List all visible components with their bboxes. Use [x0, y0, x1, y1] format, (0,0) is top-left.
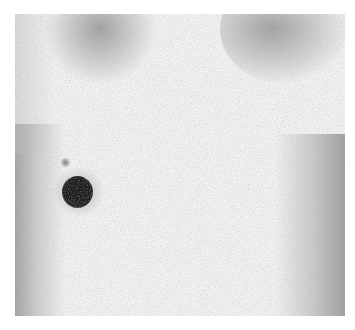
- scintigraphy-image: [15, 14, 345, 316]
- grain-texture: [15, 14, 345, 316]
